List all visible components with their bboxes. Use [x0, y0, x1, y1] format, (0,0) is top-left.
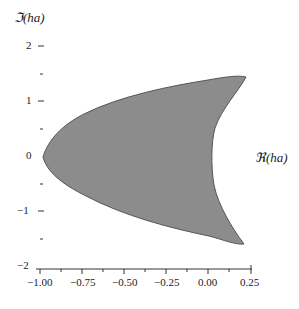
x-tick-0: 0.00	[198, 276, 217, 288]
stability-region	[43, 76, 246, 244]
x-tick-0.25: 0.25	[240, 276, 259, 288]
y-tick-0: 0	[26, 149, 32, 161]
x-axis	[36, 265, 252, 274]
x-tick-minus-0.25: −0.25	[154, 276, 179, 288]
y-axis-label: ℑ(ha)	[14, 10, 45, 26]
x-tick-minus-0.5: −0.50	[112, 276, 137, 288]
y-tick-1: 1	[26, 94, 32, 106]
y-tick-minus-2: −2	[17, 259, 29, 271]
x-tick-minus-1: −1.00	[27, 276, 52, 288]
y-tick-2: 2	[26, 39, 32, 51]
y-tick-minus-1: −1	[17, 204, 29, 216]
y-axis-ticks	[38, 46, 44, 239]
x-tick-minus-0.75: −0.75	[70, 276, 95, 288]
x-axis-label: ℜ(ha)	[255, 150, 288, 166]
